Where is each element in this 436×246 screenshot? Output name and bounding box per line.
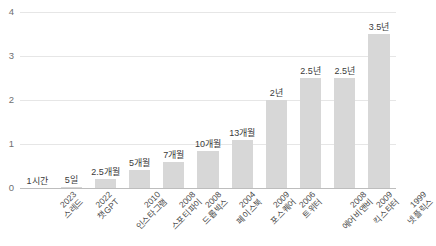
bar-slot: 1시간: [26, 12, 47, 188]
bar-series: 1시간5일2.5개월5개월7개월10개월13개월2년2.5년2.5년3.5년: [20, 12, 396, 188]
y-axis: 01234: [0, 12, 16, 188]
bar-slot: 5개월: [129, 12, 150, 188]
bar-slot: 2년: [266, 12, 287, 188]
x-tick-label: 1999넷플릭스: [399, 190, 435, 226]
x-tick-label: 2010인스타그램: [128, 190, 170, 232]
bar-slot: 2.5년: [334, 12, 355, 188]
bar: [163, 162, 184, 188]
bar-value-label: 13개월: [229, 129, 255, 138]
bar-value-label: 10개월: [195, 140, 221, 149]
x-tick-label: 2009포스퀘어: [263, 190, 299, 226]
bar-value-label: 2.5년: [300, 67, 321, 76]
bar: [197, 151, 218, 188]
x-tick-label: 2009킥스타터: [365, 190, 401, 226]
bar-slot: 10개월: [197, 12, 218, 188]
x-axis-category-labels: 2023스레드2022챗GPT2010인스타그램2008스포티파이2008드롭박…: [20, 190, 396, 246]
axis-baseline: [20, 188, 396, 189]
bar-value-label: 2.5개월: [91, 168, 120, 177]
bar: [61, 187, 82, 188]
bar-value-label: 7개월: [163, 151, 184, 160]
y-tick-label-1: 1: [0, 139, 14, 149]
bar: [129, 170, 150, 188]
y-tick-label-0: 0: [0, 183, 14, 193]
bar: [368, 34, 389, 188]
bar-slot: 2.5개월: [95, 12, 116, 188]
bar-value-label: 2.5년: [334, 67, 355, 76]
bar-value-label: 2년: [270, 89, 283, 98]
y-tick-label-4: 4: [0, 7, 14, 17]
plot-area: 1시간5일2.5개월5개월7개월10개월13개월2년2.5년2.5년3.5년: [20, 12, 396, 188]
x-tick-label: 2004페이스북: [228, 190, 264, 226]
bar: [95, 179, 116, 188]
x-tick-label: 2006트위터: [294, 190, 325, 221]
bar: [232, 140, 253, 188]
y-tick-label-3: 3: [0, 51, 14, 61]
bar: [266, 100, 287, 188]
bar-value-label: 1시간: [27, 177, 48, 186]
bar: [334, 78, 355, 188]
bar: [300, 78, 321, 188]
y-tick-label-2: 2: [0, 95, 14, 105]
bar-value-label: 5개월: [129, 159, 150, 168]
bar-slot: 3.5년: [368, 12, 389, 188]
x-tick-label: 2023스레드: [55, 190, 86, 221]
bar-value-label: 3.5년: [369, 23, 390, 32]
bar-slot: 13개월: [232, 12, 253, 188]
x-tick-label: 2022챗GPT: [90, 190, 122, 222]
x-tick-label: 2008드롭박스: [194, 190, 230, 226]
bar-value-label: 5일: [65, 176, 78, 185]
bar-slot: 2.5년: [300, 12, 321, 188]
bar-slot: 7개월: [163, 12, 184, 188]
bar-slot: 5일: [61, 12, 82, 188]
